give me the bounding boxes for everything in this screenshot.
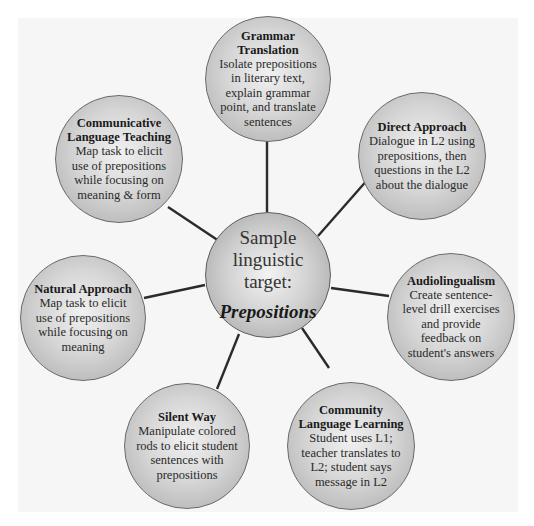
node-desc: L2; student says [310,460,391,475]
node-title: Direct Approach [378,120,467,134]
node-desc: use of prepositions [36,311,130,326]
node-desc: Student uses L1; [309,431,392,446]
node-natural-approach: Natural Approach Map task to elicit use … [20,255,146,381]
node-desc: sentences with [150,453,223,468]
connector-direct-approach [318,178,369,236]
node-communicative-language-teaching: Communicative Language Teaching Map task… [55,95,183,223]
node-desc: Create sentence- [410,288,493,303]
node-title: Language Learning [298,417,403,431]
connector-communicative-language-teaching [168,207,222,243]
node-grammar-translation: Grammar Translation Isolate prepositions… [205,16,331,142]
center-line-3: target: [244,271,292,293]
center-node-linguistic-target: Sample linguistic target: Prepositions [205,212,331,338]
node-title: Silent Way [158,410,216,424]
node-community-language-learning: Community Language Learning Student uses… [287,382,415,510]
connector-audiolingualism [331,288,389,296]
node-desc: meaning [61,340,104,355]
node-desc: Map task to elicit [75,144,162,159]
node-audiolingualism: Audiolingualism Create sentence- level d… [387,253,515,381]
node-title: Language Teaching [67,130,171,144]
node-desc: explain grammar [225,86,310,101]
node-desc: point, and translate [220,100,315,115]
node-desc: student's answers [408,346,495,361]
node-desc: Isolate prepositions [219,57,317,72]
node-desc: while focusing on [74,173,164,188]
node-desc: about the dialogue [376,178,468,193]
node-title: Grammar [241,29,295,43]
node-desc: Manipulate colored [138,424,236,439]
node-direct-approach: Direct Approach Dialogue in L2 using pre… [358,92,486,220]
node-desc: prepositions, then [378,149,467,164]
node-desc: message in L2 [315,475,387,490]
connector-community-language-learning [302,328,329,368]
node-title: Audiolingualism [407,274,495,288]
center-target-label: Prepositions [219,301,316,323]
node-desc: while focusing on [38,325,128,340]
node-desc: Map task to elicit [39,296,126,311]
node-desc: prepositions [156,468,217,483]
center-line-1: Sample [240,227,297,249]
node-desc: meaning & form [77,188,160,203]
node-title: Natural Approach [34,282,131,296]
center-line-2: linguistic [233,249,304,271]
node-desc: questions in the L2 [374,163,469,178]
node-silent-way: Silent Way Manipulate colored rods to el… [124,383,250,509]
node-desc: Dialogue in L2 using [369,134,475,149]
node-desc: use of prepositions [72,159,166,174]
node-desc: level drill exercises [402,302,499,317]
connector-silent-way [217,334,239,389]
node-title: Community [319,403,383,417]
node-desc: feedback on [421,331,482,346]
node-desc: in literary text, [231,71,305,86]
node-title: Communicative [77,116,162,130]
node-desc: rods to elicit student [136,439,238,454]
node-desc: and provide [421,317,480,332]
node-desc: teacher translates to [301,446,400,461]
connector-natural-approach [144,285,205,298]
node-desc: sentences [244,115,292,130]
node-title: Translation [237,43,299,57]
